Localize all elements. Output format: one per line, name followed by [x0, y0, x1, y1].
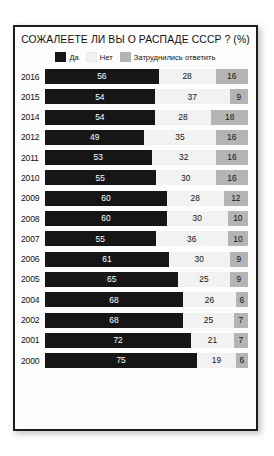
row-year-label: 2011 [21, 153, 45, 163]
bar-segment-hard: 9 [230, 89, 248, 104]
chart-row: 2014542818 [21, 110, 248, 125]
bar-segment-no: 28 [167, 191, 224, 206]
legend-label-no: Нет [100, 53, 113, 62]
bar-value-label: 7 [239, 336, 244, 344]
bar-value-label: 68 [109, 316, 118, 324]
bar-segment-hard: 9 [230, 272, 248, 287]
legend-label-yes: Да [69, 53, 78, 62]
bar-segment-hard: 6 [236, 353, 248, 368]
bar-segment-no: 30 [169, 252, 230, 267]
row-bar-track: 75196 [45, 353, 248, 368]
row-bar-track: 65259 [45, 272, 248, 287]
bar-segment-no: 25 [183, 313, 234, 328]
bar-segment-hard: 7 [234, 313, 248, 328]
row-year-label: 2014 [21, 112, 45, 122]
bar-segment-no: 28 [155, 110, 212, 125]
bar-value-label: 36 [187, 235, 196, 243]
bar-value-label: 61 [102, 255, 111, 263]
legend-label-hard: Затруднились ответить [134, 53, 216, 62]
row-year-label: 2000 [21, 356, 45, 366]
bar-value-label: 19 [212, 356, 221, 364]
bar-segment-yes: 60 [45, 211, 167, 226]
bar-value-label: 72 [113, 336, 122, 344]
bar-value-label: 49 [90, 133, 99, 141]
bar-segment-no: 25 [178, 272, 229, 287]
row-bar-track: 602812 [45, 191, 248, 206]
bar-value-label: 56 [97, 72, 106, 80]
chart-panel: СОЖАЛЕЕТЕ ЛИ ВЫ О РАСПАДЕ СССР ? (%) Да … [13, 25, 258, 431]
bar-segment-no: 21 [191, 333, 234, 348]
bar-value-label: 7 [239, 316, 244, 324]
bar-value-label: 9 [237, 93, 242, 101]
bar-segment-yes: 75 [45, 353, 197, 368]
bar-value-label: 54 [95, 93, 104, 101]
bar-segment-no: 19 [197, 353, 236, 368]
legend-swatch-yes-icon [55, 52, 66, 62]
bar-value-label: 16 [227, 174, 236, 182]
bar-value-label: 75 [116, 356, 125, 364]
bar-value-label: 9 [236, 275, 241, 283]
bar-value-label: 28 [191, 194, 200, 202]
chart-row: 2008603010 [21, 211, 248, 226]
bar-segment-no: 28 [159, 69, 216, 84]
legend-item-no: Нет [86, 52, 113, 62]
bar-value-label: 30 [193, 214, 202, 222]
bar-segment-yes: 54 [45, 110, 155, 125]
chart-row: 2010553016 [21, 170, 248, 185]
bar-segment-yes: 54 [45, 89, 155, 104]
row-bar-track: 603010 [45, 211, 248, 226]
bar-segment-yes: 72 [45, 333, 191, 348]
legend-item-yes: Да [55, 52, 78, 62]
bar-segment-yes: 68 [45, 313, 183, 328]
bar-value-label: 16 [227, 72, 236, 80]
chart-row: 200075196 [21, 353, 248, 368]
row-bar-track: 562816 [45, 69, 248, 84]
bar-value-label: 9 [237, 255, 242, 263]
bar-segment-yes: 49 [45, 130, 144, 145]
bar-segment-hard: 7 [234, 333, 248, 348]
row-bar-track: 533216 [45, 150, 248, 165]
chart-row: 200661309 [21, 252, 248, 267]
bar-value-label: 60 [101, 214, 110, 222]
bar-segment-hard: 6 [236, 292, 248, 307]
bar-value-label: 6 [240, 296, 245, 304]
bar-value-label: 16 [227, 153, 236, 161]
bar-segment-hard: 16 [216, 130, 248, 145]
bar-segment-no: 37 [155, 89, 230, 104]
bar-value-label: 6 [240, 356, 245, 364]
bar-segment-no: 30 [167, 211, 228, 226]
row-year-label: 2016 [21, 72, 45, 82]
bar-value-label: 18 [225, 113, 234, 121]
row-year-label: 2006 [21, 254, 45, 264]
bar-segment-hard: 18 [211, 110, 248, 125]
bar-value-label: 30 [181, 174, 190, 182]
chart-rows: 2016562816201554379201454281820124935162… [15, 69, 256, 368]
chart-row: 200565259 [21, 272, 248, 287]
bar-segment-hard: 9 [230, 252, 248, 267]
chart-row: 2007553610 [21, 231, 248, 246]
bar-segment-hard: 10 [228, 211, 248, 226]
chart-row: 200172217 [21, 333, 248, 348]
row-year-label: 2004 [21, 295, 45, 305]
row-year-label: 2015 [21, 92, 45, 102]
bar-segment-yes: 53 [45, 150, 152, 165]
row-year-label: 2002 [21, 315, 45, 325]
bar-value-label: 21 [208, 336, 217, 344]
bar-segment-yes: 56 [45, 69, 159, 84]
bar-value-label: 25 [199, 275, 208, 283]
row-year-label: 2001 [21, 335, 45, 345]
row-bar-track: 493516 [45, 130, 248, 145]
legend-item-hard: Затруднились ответить [120, 52, 216, 62]
row-bar-track: 553610 [45, 231, 248, 246]
bar-segment-hard: 16 [216, 150, 248, 165]
bar-segment-no: 32 [152, 150, 216, 165]
chart-row: 2009602812 [21, 191, 248, 206]
row-year-label: 2007 [21, 234, 45, 244]
bar-segment-no: 26 [183, 292, 236, 307]
bar-segment-hard: 16 [216, 170, 248, 185]
bar-segment-yes: 65 [45, 272, 178, 287]
chart-row: 200268257 [21, 313, 248, 328]
bar-value-label: 26 [205, 296, 214, 304]
bar-value-label: 28 [182, 72, 191, 80]
row-year-label: 2012 [21, 132, 45, 142]
